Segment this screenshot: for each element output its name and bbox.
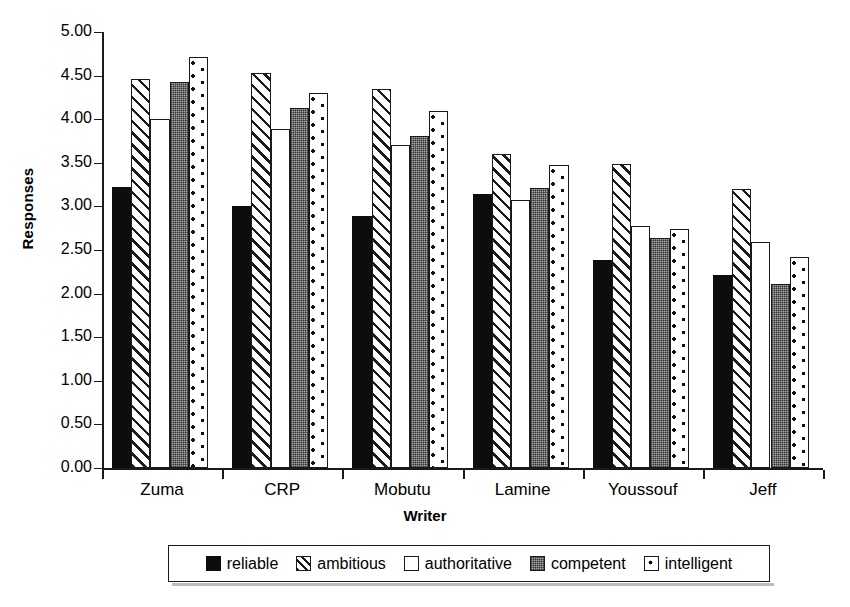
bar-group-mobutu bbox=[352, 32, 448, 468]
y-axis-tick-label: 4.00 bbox=[4, 110, 92, 126]
legend-label: intelligent bbox=[665, 555, 733, 573]
x-axis-tick-mark bbox=[102, 470, 104, 479]
y-axis-tick-label: 5.00 bbox=[4, 23, 92, 39]
bar-mobutu-intelligent bbox=[429, 111, 448, 468]
bar-crp-competent bbox=[290, 108, 309, 468]
x-axis-tick-mark bbox=[823, 470, 825, 479]
bar-jeff-intelligent bbox=[790, 257, 809, 468]
x-axis-category-jeff: Jeff bbox=[703, 480, 823, 500]
bar-jeff-reliable bbox=[713, 275, 732, 468]
bar-crp-reliable bbox=[232, 206, 251, 468]
bar-group-crp bbox=[232, 32, 328, 468]
x-axis-category-youssouf: Youssouf bbox=[583, 480, 703, 500]
bar-zuma-competent bbox=[170, 82, 189, 468]
bar-jeff-competent bbox=[771, 284, 790, 468]
bar-group-jeff bbox=[713, 32, 809, 468]
y-axis-tick-label: 1.00 bbox=[4, 372, 92, 388]
legend-item-authoritative[interactable]: authoritative bbox=[404, 555, 512, 573]
bar-youssouf-intelligent bbox=[670, 229, 689, 468]
bar-youssouf-authoritative bbox=[631, 226, 650, 468]
y-axis-tick-label: 3.00 bbox=[4, 197, 92, 213]
x-axis-tick-mark bbox=[222, 470, 224, 479]
x-axis-category-zuma: Zuma bbox=[102, 480, 222, 500]
bar-lamine-competent bbox=[530, 188, 549, 468]
bar-group-youssouf bbox=[593, 32, 689, 468]
bar-group-zuma bbox=[112, 32, 208, 468]
x-axis-category-mobutu: Mobutu bbox=[342, 480, 462, 500]
y-axis-tick-label: 0.50 bbox=[4, 415, 92, 431]
bar-lamine-reliable bbox=[473, 194, 492, 468]
bar-group-lamine bbox=[473, 32, 569, 468]
bar-zuma-intelligent bbox=[189, 57, 208, 468]
y-axis-tick-label: 3.50 bbox=[4, 154, 92, 170]
bar-lamine-authoritative bbox=[511, 200, 530, 468]
y-axis-tick-label: 1.50 bbox=[4, 328, 92, 344]
bar-zuma-reliable bbox=[112, 187, 131, 468]
bar-lamine-ambitious bbox=[492, 154, 511, 468]
legend-item-reliable[interactable]: reliable bbox=[206, 555, 279, 573]
legend-swatch-authoritative-icon bbox=[404, 556, 419, 571]
y-axis-tick-label: 4.50 bbox=[4, 67, 92, 83]
legend-swatch-reliable-icon bbox=[206, 556, 221, 571]
plot-area bbox=[102, 32, 823, 468]
x-axis-tick-mark bbox=[583, 470, 585, 479]
legend-label: authoritative bbox=[425, 555, 512, 573]
bar-jeff-authoritative bbox=[751, 242, 770, 468]
bar-zuma-authoritative bbox=[150, 119, 169, 468]
legend-label: competent bbox=[551, 555, 626, 573]
y-axis-tick-label: 0.00 bbox=[4, 459, 92, 475]
chart-legend: reliableambitiousauthoritativecompetenti… bbox=[168, 545, 770, 582]
bar-youssouf-ambitious bbox=[612, 164, 631, 468]
bar-mobutu-reliable bbox=[352, 216, 371, 468]
bar-lamine-intelligent bbox=[549, 165, 568, 468]
bar-mobutu-ambitious bbox=[372, 89, 391, 468]
y-axis-line bbox=[102, 32, 104, 469]
x-axis-tick-mark bbox=[463, 470, 465, 479]
legend-swatch-ambitious-icon bbox=[296, 556, 311, 571]
chart-canvas: Responses 0.000.501.001.502.002.503.003.… bbox=[0, 0, 850, 607]
legend-swatch-competent-icon bbox=[530, 556, 545, 571]
bar-crp-ambitious bbox=[251, 73, 270, 468]
bar-zuma-ambitious bbox=[131, 79, 150, 468]
bar-mobutu-authoritative bbox=[391, 145, 410, 468]
legend-item-competent[interactable]: competent bbox=[530, 555, 626, 573]
bar-youssouf-competent bbox=[650, 238, 669, 468]
x-axis-tick-mark bbox=[703, 470, 705, 479]
bar-jeff-ambitious bbox=[732, 189, 751, 468]
x-axis-category-crp: CRP bbox=[222, 480, 342, 500]
legend-swatch-intelligent-icon bbox=[644, 556, 659, 571]
bar-mobutu-competent bbox=[410, 136, 429, 468]
legend-item-intelligent[interactable]: intelligent bbox=[644, 555, 733, 573]
x-axis-tick-mark bbox=[342, 470, 344, 479]
x-axis-category-lamine: Lamine bbox=[463, 480, 583, 500]
bar-crp-authoritative bbox=[271, 129, 290, 468]
bar-youssouf-reliable bbox=[593, 260, 612, 468]
legend-item-ambitious[interactable]: ambitious bbox=[296, 555, 385, 573]
bar-crp-intelligent bbox=[309, 93, 328, 468]
legend-label: reliable bbox=[227, 555, 279, 573]
y-axis-tick-label: 2.00 bbox=[4, 285, 92, 301]
legend-label: ambitious bbox=[317, 555, 385, 573]
x-axis-title: Writer bbox=[0, 507, 850, 524]
y-axis-tick-label: 2.50 bbox=[4, 241, 92, 257]
